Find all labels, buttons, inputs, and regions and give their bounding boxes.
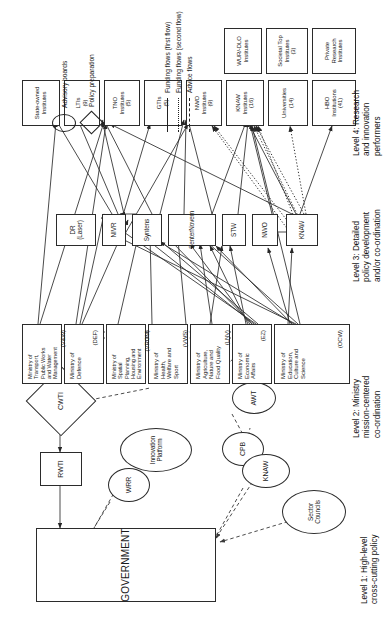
agency-stw: STW xyxy=(222,214,246,246)
ministry-vws-abbr: (VWS) xyxy=(181,327,190,381)
performer-wur-dlo-label: WUR/-DLO Institutes xyxy=(235,35,250,67)
cpb-label: CPB xyxy=(238,441,248,457)
agency-nwo-label: NWO xyxy=(260,221,269,238)
performer-hbo: HBO Institutions (41) xyxy=(312,80,356,126)
ministry-vws: Ministry of Health, Welfare and Sport (V… xyxy=(148,324,188,384)
ministry-lnv-abbr: (LNV) xyxy=(223,327,232,381)
performer-tno: TNO Institutes (5) xyxy=(104,80,140,126)
level-label-1: Level 1: High-level cross-cutting policy xyxy=(360,534,381,604)
legend-label-funding-second: Funding flows (second flow) xyxy=(175,11,182,93)
ministry-vw-abbr: (V&W) xyxy=(59,327,68,381)
performer-state-owned-label: State-owned Institutes xyxy=(33,86,48,121)
performer-hbo-label: HBO Institutions (41) xyxy=(323,88,345,117)
ministry-ocw: Ministry of Education, Culture and Scien… xyxy=(274,324,350,384)
agency-dr-laser: DR (Laser) xyxy=(56,214,96,246)
node-sector-councils: Sector Councils xyxy=(282,490,346,534)
node-wrr: WRR xyxy=(108,468,150,502)
ministry-vrom-abbr: (VROM) xyxy=(143,327,152,381)
legend-row-funding-first: Funding flows (first flow) xyxy=(164,11,171,132)
level-label-4: Level 4: Research and innovation perform… xyxy=(352,90,383,156)
ministry-vws-name: Ministry of Health, Welfare and Sport xyxy=(152,327,181,381)
agency-nivr: NIVR xyxy=(102,214,126,246)
performer-societal-top: Societal Top Institutes (3) xyxy=(266,28,308,74)
legend-row-advisory-boards: Advisory boards xyxy=(52,54,76,132)
agency-stw-label: STW xyxy=(229,222,238,238)
ministry-def-name: Ministry of Defence xyxy=(68,327,83,381)
government-node: GOVERNMENT xyxy=(36,528,216,602)
legend-row-policy-preparation: Policy preparation xyxy=(80,54,103,132)
performer-wur-dlo: WUR/-DLO Institutes xyxy=(224,28,262,74)
agency-senternovem-label: SenterNovem xyxy=(187,210,196,250)
ministry-lnv: Ministry of Agriculture, Nature and Food… xyxy=(190,324,230,384)
performer-private-research: Private Research Institutes xyxy=(312,28,356,74)
legend-line-dotted xyxy=(178,98,179,132)
wrr-label: WRR xyxy=(124,476,134,494)
node-knaw-advisory: KNAW xyxy=(242,454,290,488)
ministry-vw-name: Ministry of Transport, Public Works and … xyxy=(26,327,59,381)
government-label: GOVERNMENT xyxy=(119,527,132,603)
agency-senternovem: SenterNovem xyxy=(168,214,216,246)
legend-line-solid xyxy=(167,98,168,132)
level-label-2: Level 2: Ministry mission-centered co-or… xyxy=(352,376,383,438)
node-rwti: RWTI xyxy=(40,452,82,486)
legend-shapes: Advisory boards Policy preparation xyxy=(52,54,107,132)
ministry-lnv-name: Ministry of Agriculture, Nature and Food… xyxy=(194,327,223,381)
ministry-ez: Ministry of Economic Affairs (EZ) xyxy=(232,324,272,384)
agency-dr-laser-label: DR (Laser) xyxy=(68,215,84,245)
awt-label: AWT xyxy=(249,390,259,407)
diamond-icon xyxy=(79,110,103,134)
agency-syntens-label: Syntens xyxy=(142,218,151,242)
agency-nivr-label: NIVR xyxy=(109,222,118,239)
legend-row-funding-second: Funding flows (second flow) xyxy=(175,11,182,132)
ministry-vrom-name: Ministry of Spatial Planning, Housing an… xyxy=(110,327,143,381)
agency-knaw-label: KNAW xyxy=(297,220,306,241)
ministry-ez-name: Ministry of Economic Affairs xyxy=(236,327,258,381)
diagram-canvas: GOVERNMENT RWTI CWTI WRR Innovation Plat… xyxy=(0,0,385,638)
rwti-label: RWTI xyxy=(56,459,66,478)
node-innovation-platform: Innovation Platform xyxy=(120,428,192,472)
agency-syntens: Syntens xyxy=(132,214,162,246)
agency-knaw: KNAW xyxy=(286,214,318,246)
ministry-vrom: Ministry of Spatial Planning, Housing an… xyxy=(106,324,146,384)
performer-societal-top-label: Societal Top Institutes (3) xyxy=(276,34,298,67)
performer-tno-label: TNO Institutes (5) xyxy=(111,91,133,116)
ministry-vw: Ministry of Transport, Public Works and … xyxy=(22,324,62,384)
ministry-def-abbr: (DEF) xyxy=(91,327,100,381)
node-awt: AWT xyxy=(232,382,276,414)
ministry-ocw-name: Ministry of Education, Culture and Scien… xyxy=(279,327,308,381)
ellipse-icon xyxy=(52,114,76,132)
innovation-platform-label: Innovation Platform xyxy=(148,435,164,466)
performer-universities: Universities (14) xyxy=(268,80,308,126)
legend-label-funding-first: Funding flows (first flow) xyxy=(164,22,171,93)
performer-universities-label: Universities (14) xyxy=(280,87,295,119)
legend-flows: Funding flows (first flow) Funding flows… xyxy=(164,11,197,132)
agency-nwo: NWO xyxy=(252,214,278,246)
performer-knaw-institutes: KNAW Institutes (16) xyxy=(226,80,264,126)
legend-label-policy-preparation: Policy preparation xyxy=(88,54,95,107)
legend-line-dashed xyxy=(189,98,190,132)
sector-councils-label: Sector Councils xyxy=(306,499,322,525)
ministry-def: Ministry of Defence (DEF) xyxy=(64,324,104,384)
level-label-3: Level 3: Detailed policy development and… xyxy=(352,209,383,282)
performer-knaw-institutes-label: KNAW Institutes (16) xyxy=(234,91,256,116)
ministry-ez-abbr: (EZ) xyxy=(259,327,268,381)
knaw-advisory-label: KNAW xyxy=(261,460,271,482)
legend-row-advice: Advice flows xyxy=(186,11,193,132)
performer-private-research-label: Private Research Institutes xyxy=(323,38,345,65)
legend-label-advisory-boards: Advisory boards xyxy=(61,61,68,108)
ministry-ocw-abbr: (OCW) xyxy=(336,327,345,381)
legend-label-advice: Advice flows xyxy=(186,56,193,93)
